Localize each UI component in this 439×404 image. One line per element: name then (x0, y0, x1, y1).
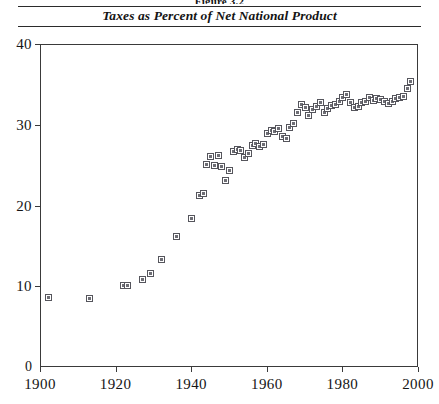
data-point (245, 150, 252, 157)
data-point (218, 163, 225, 170)
data-point (173, 233, 180, 240)
x-tick (191, 367, 192, 372)
figure-title: Taxes as Percent of Net National Product (0, 8, 439, 24)
x-tick-label: 1940 (175, 376, 207, 393)
x-tick (267, 367, 268, 372)
data-point (343, 91, 350, 98)
title-rule-top (18, 6, 421, 7)
y-tick (35, 125, 40, 126)
data-point (188, 215, 195, 222)
y-axis-line (40, 44, 41, 367)
y-tick-label: 10 (16, 278, 32, 295)
data-point (86, 295, 93, 302)
data-point (404, 85, 411, 92)
y-tick-label: 0 (25, 359, 32, 375)
data-point (215, 152, 222, 159)
data-point (226, 167, 233, 174)
figure-container: Figure 3.2 Taxes as Percent of Net Natio… (0, 0, 439, 404)
data-point (139, 276, 146, 283)
data-point (200, 190, 207, 197)
y-tick (35, 286, 40, 287)
x-tick (40, 367, 41, 372)
data-point (317, 99, 324, 106)
x-axis-line (40, 366, 418, 367)
x-tick-label: 1980 (327, 376, 359, 393)
data-point (290, 120, 297, 127)
x-tick-label: 1900 (24, 376, 56, 393)
data-point (407, 78, 414, 85)
data-point (283, 135, 290, 142)
data-point (45, 294, 52, 301)
x-tick (116, 367, 117, 372)
y-tick-label: 40 (16, 36, 32, 53)
plot-area: 010203040 190019201940196019802000 (40, 44, 418, 367)
x-tick-label: 2000 (402, 376, 434, 393)
y-tick (35, 206, 40, 207)
data-point (222, 177, 229, 184)
y-tick (35, 44, 40, 45)
x-tick-label: 1920 (100, 376, 132, 393)
data-point (305, 112, 312, 119)
data-point (302, 104, 309, 111)
data-point (237, 147, 244, 154)
data-point (158, 256, 165, 263)
data-point (203, 161, 210, 168)
title-rule-bottom (18, 26, 421, 27)
data-point (147, 270, 154, 277)
data-point (207, 153, 214, 160)
data-point (275, 125, 282, 132)
data-point (124, 282, 131, 289)
x-tick (418, 367, 419, 372)
data-point (294, 109, 301, 116)
data-point (260, 141, 267, 148)
data-point (400, 93, 407, 100)
data-point (211, 162, 218, 169)
figure-number: Figure 3.2 (0, 0, 439, 4)
y-tick-label: 30 (16, 116, 32, 133)
x-tick-label: 1960 (251, 376, 283, 393)
y-tick-label: 20 (16, 197, 32, 214)
plot-frame-top (40, 44, 418, 45)
plot-frame-right (417, 44, 418, 367)
x-tick (342, 367, 343, 372)
